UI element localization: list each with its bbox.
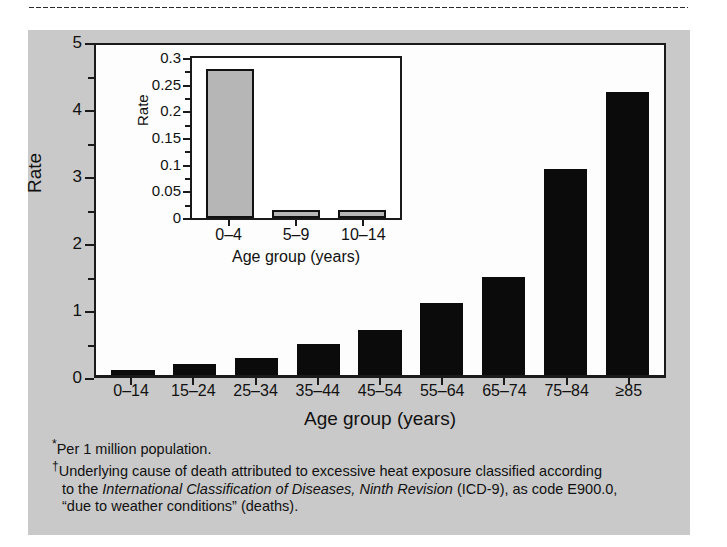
footnote-line-3: to the International Classification of D… xyxy=(52,481,682,499)
main-y-tick xyxy=(85,244,94,246)
main-bar xyxy=(111,370,154,375)
main-bar xyxy=(420,303,463,375)
main-bar xyxy=(606,92,649,375)
main-y-tick-label: 0 xyxy=(73,369,82,386)
main-y-axis-title: Rate xyxy=(24,153,46,193)
inset-bar xyxy=(338,210,387,218)
main-bar-slot xyxy=(473,45,535,375)
inset-bar xyxy=(272,210,321,218)
inset-bar-slot xyxy=(329,58,395,218)
inset-y-tick xyxy=(183,58,190,60)
main-x-axis-title: Age group (years) xyxy=(94,408,666,430)
main-x-tick-label: 15–24 xyxy=(162,382,224,400)
inset-y-tick-label: 0.15 xyxy=(152,130,181,145)
inset-y-tick-label: 0.05 xyxy=(152,183,181,198)
inset-y-tick-label: 0.25 xyxy=(152,77,181,92)
main-bar xyxy=(173,364,216,375)
inset-x-tick-label: 10–14 xyxy=(330,226,397,244)
footnote-icd-title: International Classification of Diseases… xyxy=(102,481,453,497)
inset-bar-slot xyxy=(263,58,329,218)
main-x-tick-label: 35–44 xyxy=(287,382,349,400)
figure-panel: Rate 012345 0–1415–2425–3435–4445–5455–6… xyxy=(28,30,690,535)
inset-y-tick-label: 0.3 xyxy=(160,50,181,65)
main-y-tick-label: 2 xyxy=(73,235,82,252)
inset-y-tick xyxy=(183,191,190,193)
main-y-tick-label: 3 xyxy=(73,168,82,185)
main-bar xyxy=(544,169,587,375)
main-bar xyxy=(358,330,401,375)
inset-y-axis: Rate 00.050.10.150.20.250.3 xyxy=(140,56,190,222)
main-y-tick xyxy=(85,110,94,112)
footnote-line-3-suffix: (ICD-9), as code E900.0, xyxy=(453,481,617,497)
main-x-tick-label: 75–84 xyxy=(536,382,598,400)
main-y-tick-label: 1 xyxy=(73,302,82,319)
inset-x-tick-label: 0–4 xyxy=(195,226,262,244)
inset-chart: Rate 00.050.10.150.20.250.3 0–45–910–14 … xyxy=(140,56,402,271)
inset-x-axis-title: Age group (years) xyxy=(190,248,402,266)
main-x-tick-label: 45–54 xyxy=(349,382,411,400)
inset-x-tick-labels: 0–45–910–14 xyxy=(190,226,402,244)
main-x-tick-labels: 0–1415–2425–3435–4445–5455–6465–7475–84≥… xyxy=(94,382,666,400)
inset-plot-area xyxy=(190,56,402,220)
inset-y-tick xyxy=(183,165,190,167)
main-bar-slot xyxy=(411,45,473,375)
main-x-tick-label: ≥85 xyxy=(598,382,660,400)
footnote-line-2-text: Underlying cause of death attributed to … xyxy=(59,463,602,479)
inset-y-tick-label: 0 xyxy=(173,210,181,225)
footnote-line-1-text: Per 1 million population. xyxy=(57,441,212,457)
inset-y-tick xyxy=(183,138,190,140)
main-x-tick-label: 65–74 xyxy=(473,382,535,400)
main-x-tick-label: 0–14 xyxy=(100,382,162,400)
main-bar xyxy=(297,344,340,375)
main-bar-slot xyxy=(596,45,658,375)
dotted-divider-rule xyxy=(28,6,688,9)
footnotes: *Per 1 million population. †Underlying c… xyxy=(52,436,682,516)
main-y-tick xyxy=(85,311,94,313)
main-bar xyxy=(482,277,525,375)
main-y-tick xyxy=(85,177,94,179)
inset-y-tick-label: 0.1 xyxy=(160,157,181,172)
inset-bar-slot xyxy=(197,58,263,218)
inset-y-axis-title: Rate xyxy=(134,94,151,126)
main-y-tick xyxy=(85,378,94,380)
inset-y-tick xyxy=(183,85,190,87)
footnote-line-4-text: “due to weather conditions” (deaths). xyxy=(62,498,298,514)
main-bar xyxy=(235,358,278,375)
footnote-line-2: †Underlying cause of death attributed to… xyxy=(52,458,682,480)
footnote-dagger-mark: † xyxy=(52,459,59,473)
inset-bar-series xyxy=(192,58,400,218)
main-y-tick-label: 5 xyxy=(73,34,82,51)
footnote-line-1: *Per 1 million population. xyxy=(52,436,682,458)
inset-y-tick xyxy=(183,218,190,220)
footnote-line-4: “due to weather conditions” (deaths). xyxy=(52,498,682,516)
main-y-axis: Rate 012345 xyxy=(28,43,94,381)
main-x-tick-label: 55–64 xyxy=(411,382,473,400)
inset-x-tick-label: 5–9 xyxy=(262,226,329,244)
inset-y-tick xyxy=(183,111,190,113)
main-x-tick-label: 25–34 xyxy=(224,382,286,400)
main-y-tick-label: 4 xyxy=(73,101,82,118)
main-bar-slot xyxy=(534,45,596,375)
inset-bar xyxy=(206,69,255,218)
footnote-line-3-prefix: to the xyxy=(62,481,102,497)
inset-y-tick-label: 0.2 xyxy=(160,103,181,118)
main-y-tick xyxy=(85,43,94,45)
